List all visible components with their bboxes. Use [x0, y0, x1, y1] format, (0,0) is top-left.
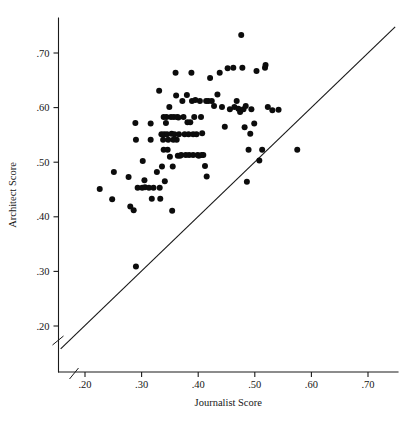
data-point	[148, 120, 154, 126]
data-point	[176, 131, 182, 137]
x-tick-label: .70	[361, 379, 374, 390]
data-point	[202, 163, 208, 169]
data-point	[256, 158, 262, 164]
data-point	[247, 131, 253, 137]
x-axis-title: Journalist Score	[195, 397, 263, 408]
data-points	[97, 32, 301, 270]
data-point	[187, 119, 193, 125]
data-point	[276, 107, 282, 113]
data-point	[133, 137, 139, 143]
data-point	[244, 179, 250, 185]
y-tick-label: .50	[36, 157, 49, 168]
data-point	[222, 124, 228, 130]
data-point	[191, 114, 197, 120]
x-tick-label: .20	[78, 379, 91, 390]
data-point	[190, 131, 196, 137]
data-point	[204, 173, 210, 179]
data-point	[214, 92, 220, 98]
data-point	[161, 114, 167, 120]
y-tick-label: .60	[36, 102, 49, 113]
data-point	[199, 152, 205, 158]
data-point	[170, 164, 176, 170]
y-axis-title: Architect Score	[7, 162, 18, 228]
data-point	[259, 147, 265, 153]
x-tick-label: .30	[135, 379, 148, 390]
data-point	[198, 114, 204, 120]
data-point	[197, 98, 203, 104]
data-point	[254, 68, 260, 74]
identity-reference-line	[61, 27, 396, 349]
data-point	[234, 98, 240, 104]
data-point	[230, 65, 236, 71]
data-point	[184, 92, 190, 98]
data-point	[207, 75, 213, 81]
plot-canvas: .20.30.40.50.60.70 .20.30.40.50.60.70 Jo…	[0, 0, 418, 425]
data-point	[140, 158, 146, 164]
x-tick-label: .50	[248, 379, 261, 390]
data-point	[162, 178, 168, 184]
axes	[53, 18, 399, 379]
x-tick-label: .60	[305, 379, 318, 390]
data-point	[170, 137, 176, 143]
x-tick-label: .40	[192, 379, 205, 390]
scatter-plot-figure: .20.30.40.50.60.70 .20.30.40.50.60.70 Jo…	[0, 0, 418, 425]
y-tick-label: .40	[36, 211, 49, 222]
x-axis-ticks: .20.30.40.50.60.70	[78, 372, 374, 390]
data-point	[166, 104, 172, 110]
data-point	[173, 93, 179, 99]
data-point	[149, 196, 155, 202]
data-point	[169, 208, 175, 214]
data-point	[242, 124, 248, 130]
data-point	[131, 207, 137, 213]
y-tick-label: .20	[36, 321, 49, 332]
data-point	[238, 32, 244, 38]
data-point	[251, 120, 257, 126]
data-point	[126, 174, 132, 180]
data-point	[148, 137, 154, 143]
data-point	[294, 147, 300, 153]
data-point	[173, 70, 179, 76]
data-point	[239, 65, 245, 71]
data-point	[219, 104, 225, 110]
reference-line-segment	[61, 27, 396, 349]
data-point	[167, 154, 173, 160]
data-point	[111, 169, 117, 175]
data-point	[269, 107, 275, 113]
data-point	[157, 196, 163, 202]
y-tick-label: .70	[36, 48, 49, 59]
data-point	[97, 186, 103, 192]
y-tick-label: .30	[36, 266, 49, 277]
data-point	[243, 103, 249, 109]
x-break-slash	[70, 368, 79, 379]
data-point	[109, 196, 115, 202]
data-point	[141, 177, 147, 183]
data-point	[158, 131, 164, 137]
data-point	[199, 130, 205, 136]
data-point	[154, 169, 160, 175]
data-point	[180, 114, 186, 120]
data-point	[248, 106, 254, 112]
data-point	[225, 65, 231, 71]
y-axis-ticks: .20.30.40.50.60.70	[36, 48, 58, 332]
data-point	[263, 62, 269, 68]
data-point	[132, 120, 138, 126]
data-point	[211, 103, 217, 109]
data-point	[159, 164, 165, 170]
data-point	[246, 147, 252, 153]
data-point	[179, 98, 185, 104]
data-point	[133, 263, 139, 269]
data-point	[217, 70, 223, 76]
data-point	[188, 70, 194, 76]
data-point	[150, 185, 156, 191]
data-point	[157, 185, 163, 191]
data-point	[156, 88, 162, 94]
data-point	[163, 120, 169, 126]
data-point	[175, 114, 181, 120]
data-point	[165, 147, 171, 153]
x-axis-break-marks	[70, 368, 79, 379]
